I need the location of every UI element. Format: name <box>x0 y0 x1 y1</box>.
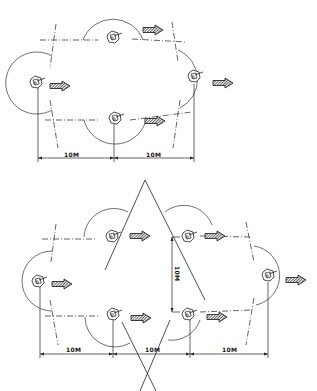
perimeter-line <box>132 39 186 42</box>
boundary-line <box>140 320 170 391</box>
vertical-dimension-label: 10M <box>174 266 181 281</box>
guard-icon <box>106 230 121 242</box>
coverage-arc <box>168 320 200 340</box>
boundary-line <box>122 322 156 391</box>
direction-arrow-icon <box>50 81 70 91</box>
direction-arrow-icon <box>213 78 233 88</box>
dimension-label: 10M <box>222 346 237 353</box>
guard-icon <box>188 70 203 82</box>
guard-icon <box>30 76 45 88</box>
guard-icon <box>109 112 124 124</box>
guard-icon <box>32 275 47 287</box>
coverage-arc-left <box>6 52 52 114</box>
direction-arrow-icon <box>207 312 227 322</box>
guard-icon <box>262 269 277 281</box>
direction-arrow-icon <box>145 116 165 126</box>
perimeter-line <box>173 100 180 148</box>
coverage-arc <box>85 317 130 347</box>
direction-arrow-icon <box>143 25 163 35</box>
formation-diagram-2: 10M 10M 10M 10M <box>22 180 306 391</box>
boundary-line <box>105 180 145 270</box>
guard-icon <box>182 308 197 320</box>
direction-arrow-icon <box>286 275 306 285</box>
formation-diagram-1: 10M 10M <box>6 19 233 162</box>
guard-icon <box>182 230 197 242</box>
guard-icon <box>107 31 122 43</box>
dimension-label: 10M <box>66 346 81 353</box>
perimeter-line <box>50 24 56 68</box>
direction-arrow-icon <box>131 313 151 323</box>
dimension-label: 10M <box>64 151 79 158</box>
dimension-label: 10M <box>145 346 160 353</box>
dimension-label: 10M <box>146 151 161 158</box>
coverage-arc <box>165 205 212 225</box>
boundary-line <box>145 180 205 300</box>
perimeter-line <box>172 22 178 62</box>
direction-arrow-icon <box>52 279 72 289</box>
diagram-canvas: 10M 10M <box>0 0 317 391</box>
perimeter-line <box>50 100 58 148</box>
guard-icon <box>107 308 122 320</box>
direction-arrow-icon <box>205 231 225 241</box>
direction-arrow-icon <box>130 231 150 241</box>
